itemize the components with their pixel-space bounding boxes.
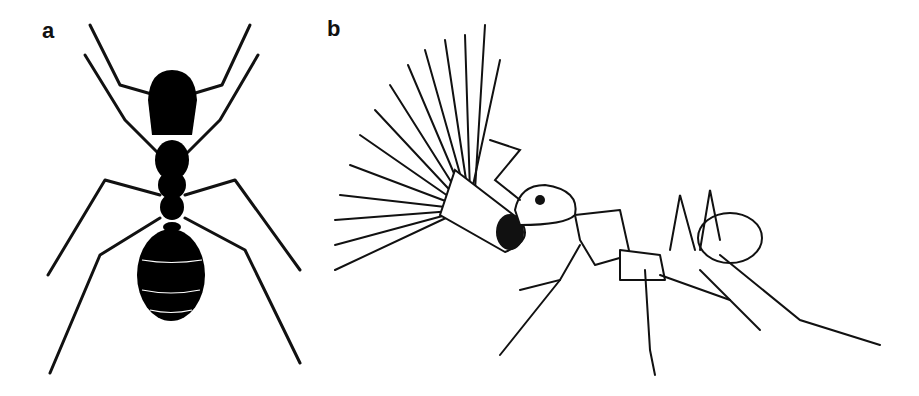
leafcutter-ant-illustration (320, 0, 919, 396)
panel-b: b (320, 0, 919, 396)
ant-dorsal-illustration (0, 0, 320, 396)
panel-a: a (0, 0, 320, 396)
